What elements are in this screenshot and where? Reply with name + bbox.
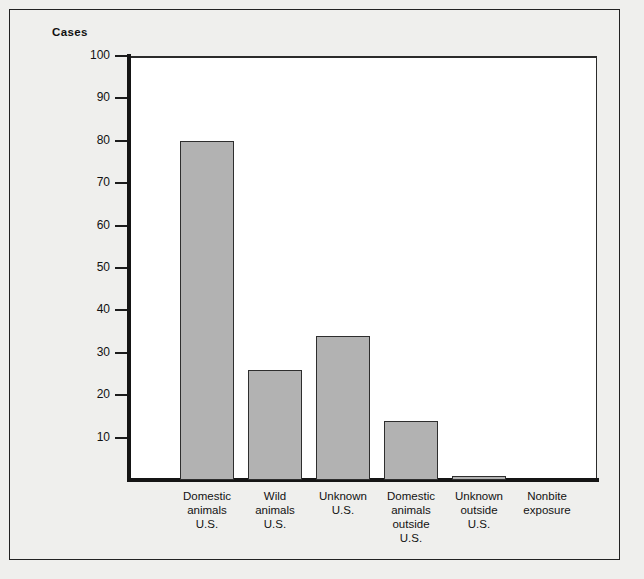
bar bbox=[180, 141, 234, 480]
bar bbox=[316, 336, 370, 480]
y-tick-label: 90 bbox=[70, 90, 110, 104]
y-tick-mark bbox=[115, 309, 127, 311]
y-tick-mark bbox=[115, 55, 127, 57]
y-tick-mark bbox=[115, 97, 127, 99]
y-tick-mark bbox=[115, 267, 127, 269]
y-tick-label: 40 bbox=[70, 302, 110, 316]
chart-figure: Cases 102030405060708090100 Domesticanim… bbox=[0, 0, 644, 579]
y-tick-label: 60 bbox=[70, 218, 110, 232]
y-tick-mark bbox=[115, 394, 127, 396]
y-tick-mark bbox=[115, 352, 127, 354]
y-tick-label: 20 bbox=[70, 387, 110, 401]
y-tick-label: 50 bbox=[70, 260, 110, 274]
y-axis-title: Cases bbox=[52, 26, 88, 38]
y-tick-mark bbox=[115, 182, 127, 184]
y-tick-label: 70 bbox=[70, 175, 110, 189]
y-tick-label: 30 bbox=[70, 345, 110, 359]
y-axis bbox=[127, 54, 131, 482]
plot-right-border bbox=[596, 56, 598, 480]
y-tick-label: 100 bbox=[70, 48, 110, 62]
bar bbox=[248, 370, 302, 480]
y-tick-label: 10 bbox=[70, 430, 110, 444]
y-tick-mark bbox=[115, 437, 127, 439]
bar bbox=[452, 476, 506, 480]
y-tick-mark bbox=[115, 140, 127, 142]
bar bbox=[384, 421, 438, 480]
y-tick-label: 80 bbox=[70, 133, 110, 147]
x-tick-label: Nonbiteexposure bbox=[501, 489, 593, 517]
y-tick-mark bbox=[115, 225, 127, 227]
plot-top-border bbox=[130, 56, 597, 58]
